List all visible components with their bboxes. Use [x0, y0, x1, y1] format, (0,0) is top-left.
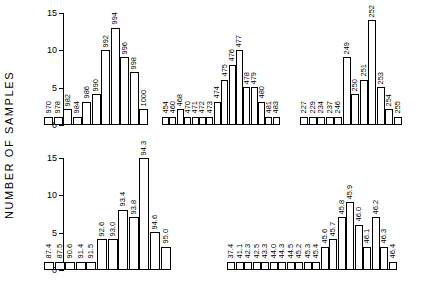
histogram-bar: 46.1	[363, 247, 371, 269]
histogram-bar: 992	[101, 50, 110, 124]
histogram-bar: 44.3	[278, 262, 286, 269]
histogram-bar: 996	[120, 57, 129, 124]
bar-value-label: 37.4	[227, 244, 235, 259]
histogram-bar: 454	[162, 117, 169, 124]
histogram-bar: 44.0	[270, 262, 278, 269]
histogram-bar: 984	[73, 117, 82, 124]
bar-value-label: 46.1	[363, 229, 371, 244]
bar-value-label: 475	[221, 64, 229, 77]
bar-value-label: 46.4	[389, 244, 397, 259]
bar-value-label: 984	[73, 101, 81, 114]
histogram-bar: 45.4	[312, 262, 320, 269]
figure: NUMBER OF SAMPLES 051015 970978982984986…	[0, 0, 442, 290]
bar-value-label: 227	[300, 101, 308, 114]
bar-value-label: 44.5	[287, 244, 295, 259]
bar-value-label: 473	[206, 101, 214, 114]
bar-value-label: 994	[111, 12, 119, 25]
histogram-bar: 254	[385, 109, 393, 124]
bar-value-label: 477	[236, 34, 244, 47]
histogram-bar: 470	[184, 117, 191, 124]
histogram-bar: 237	[326, 117, 334, 124]
bar-value-label: 90.6	[66, 244, 74, 259]
histogram-bar: 255	[394, 117, 402, 124]
bar-value-label: 250	[351, 79, 359, 92]
bar-value-label: 479	[250, 71, 258, 84]
histogram-bar: 251	[360, 80, 368, 124]
bar-value-label: 45.9	[346, 185, 354, 200]
bar-value-label: 44.3	[278, 244, 286, 259]
bar-value-label: 87.5	[56, 244, 64, 259]
y-axis-tick	[59, 270, 64, 271]
bar-value-label: 45.2	[295, 244, 303, 259]
histogram-bar: 42.5	[253, 262, 261, 269]
bar-value-label: 45.6	[321, 229, 329, 244]
histogram-bar: 478	[243, 87, 250, 124]
bar-group: 37.441.142.342.543.344.044.344.545.245.3…	[227, 158, 397, 269]
histogram-bar: 87.5	[55, 262, 65, 269]
bar-value-label: 42.5	[253, 244, 261, 259]
y-axis-tick	[59, 125, 64, 126]
histogram-bar: 93.8	[129, 217, 139, 269]
bar-value-label: 255	[394, 101, 402, 114]
bar-value-label: 998	[130, 57, 138, 70]
histogram-bar: 998	[130, 72, 139, 124]
histogram-bar: 93.0	[108, 239, 118, 269]
panel-2: 4544604684704714724734744754764774784794…	[162, 13, 280, 125]
bar-value-label: 87.4	[45, 244, 53, 259]
histogram-bar: 227	[300, 117, 308, 124]
histogram-bar: 94.3	[139, 158, 149, 269]
bar-value-label: 252	[368, 5, 376, 18]
histogram-bar: 46.3	[380, 247, 388, 269]
panel-1: 9709789829849869909929949969981000	[44, 13, 148, 125]
bar-value-label: 46.3	[380, 229, 388, 244]
bar-value-label: 234	[317, 101, 325, 114]
histogram-bar: 45.8	[338, 217, 346, 269]
histogram-bar: 246	[334, 117, 342, 124]
histogram-bar: 87.4	[44, 262, 54, 269]
panel-5: 37.441.142.342.543.344.044.344.545.245.3…	[227, 158, 397, 270]
histogram-bar: 91.5	[86, 262, 96, 269]
bar-group: 87.487.590.691.491.592.693.093.493.894.3…	[44, 158, 171, 269]
bar-group: 227229234237246249250251252253254255	[300, 13, 402, 124]
bar-value-label: 251	[360, 64, 368, 77]
histogram-bar: 45.3	[304, 262, 312, 269]
histogram-bar: 43.3	[261, 262, 269, 269]
histogram-bar: 45.6	[321, 247, 329, 269]
histogram-bar: 475	[221, 80, 228, 124]
bar-value-label: 996	[121, 42, 129, 55]
bar-value-label: 992	[102, 34, 110, 47]
histogram-bar: 994	[111, 28, 120, 124]
histogram-bar: 44.5	[287, 262, 295, 269]
bar-value-label: 253	[377, 71, 385, 84]
histogram-bar: 978	[54, 117, 63, 124]
x-axis-baseline	[162, 124, 280, 125]
bar-value-label: 92.6	[98, 222, 106, 237]
bar-value-label: 93.8	[130, 200, 138, 215]
histogram-bar: 481	[265, 117, 272, 124]
histogram-bar: 476	[229, 65, 236, 124]
bar-value-label: 93.4	[119, 192, 127, 207]
histogram-bar: 234	[317, 117, 325, 124]
histogram-bar: 460	[169, 117, 176, 124]
histogram-bar: 94.6	[150, 232, 160, 269]
bar-value-label: 46.2	[372, 200, 380, 215]
bar-value-label: 990	[92, 79, 100, 92]
histogram-bar: 474	[214, 102, 221, 124]
bar-value-label: 95.0	[162, 229, 170, 244]
bar-value-label: 970	[45, 101, 53, 114]
x-axis-baseline	[300, 124, 402, 125]
bar-value-label: 1000	[140, 90, 148, 107]
bar-value-label: 978	[54, 101, 62, 114]
histogram-bar: 45.7	[329, 239, 337, 269]
panel-row-1: 051015 970978982984986990992994996998100…	[22, 0, 442, 145]
bar-value-label: 45.8	[338, 200, 346, 215]
histogram-bar: 250	[351, 94, 359, 124]
histogram-bar: 483	[273, 117, 280, 124]
panel-4: 87.487.590.691.491.592.693.093.493.894.3…	[44, 158, 171, 270]
bar-value-label: 46.0	[355, 207, 363, 222]
histogram-bar: 990	[92, 94, 101, 124]
histogram-bar: 91.4	[76, 262, 86, 269]
histogram-bar: 42.3	[244, 262, 252, 269]
histogram-bar: 41.1	[236, 262, 244, 269]
bar-value-label: 91.5	[88, 244, 96, 259]
